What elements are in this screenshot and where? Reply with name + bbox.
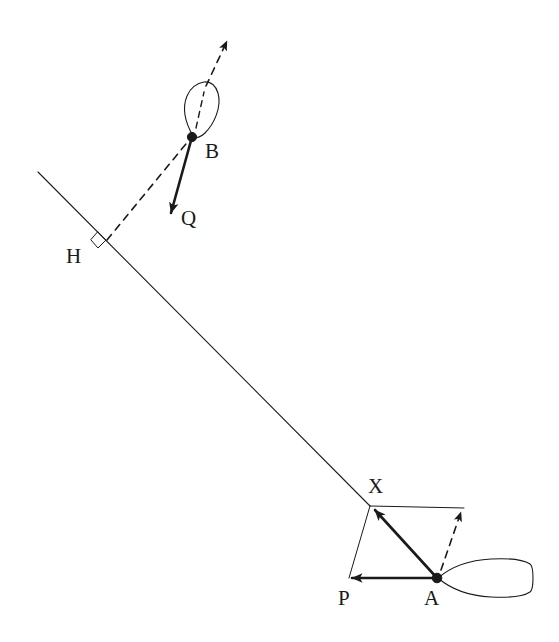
boat-hull-a: [438, 559, 533, 598]
label-q: Q: [181, 206, 196, 230]
point-b-marker: [187, 132, 196, 141]
diagram-canvas: B Q H X P A: [0, 0, 559, 642]
label-p: P: [338, 586, 350, 610]
right-angle-marker-h: [91, 232, 106, 248]
geometry-figure: B Q H X P A: [0, 0, 559, 642]
boat-b-centerline: [196, 92, 204, 128]
parallelogram-top-side: [370, 506, 464, 508]
heading-arrow-b: [206, 41, 227, 86]
heading-arrow-a: [441, 512, 461, 570]
boat-hull-b: [185, 82, 220, 138]
vector-ax: [375, 510, 437, 578]
parallelogram-left-side: [349, 506, 370, 578]
label-h: H: [66, 244, 81, 268]
point-a-marker: [432, 573, 442, 583]
label-a: A: [424, 586, 440, 610]
baseline-segment: [38, 172, 370, 506]
label-x: X: [368, 474, 383, 498]
label-b: B: [205, 139, 219, 163]
